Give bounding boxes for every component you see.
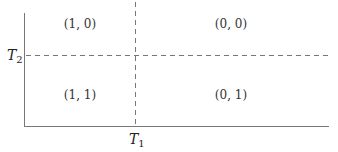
region-label-top-left: (1, 0) [64,17,96,31]
t1-label: T1 [129,131,145,149]
region-label-top-right: (0, 0) [215,17,247,31]
threshold-quadrant-diagram: (1, 0) (0, 0) (1, 1) (0, 1) T2 T1 [0,0,338,152]
region-label-bottom-left: (1, 1) [64,88,96,102]
region-label-bottom-right: (0, 1) [215,88,247,102]
t2-label: T2 [7,47,23,65]
